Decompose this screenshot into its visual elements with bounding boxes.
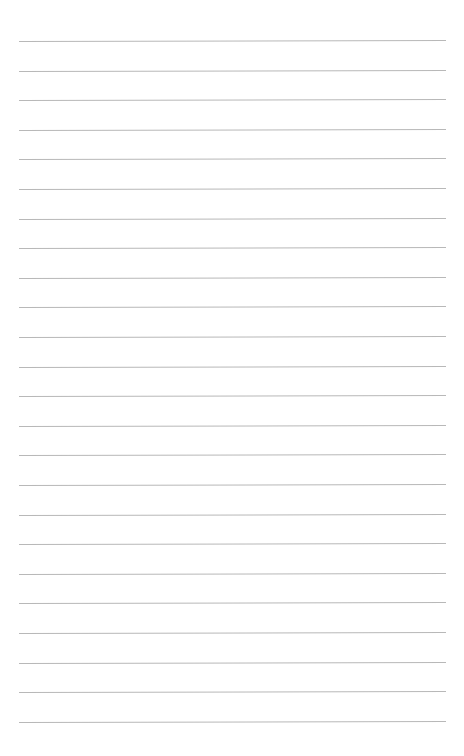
ruled-line [19, 70, 446, 72]
ruled-line [19, 277, 446, 279]
ruled-line [19, 336, 446, 338]
ruled-line [19, 395, 446, 397]
ruled-line [19, 129, 446, 131]
ruled-line [19, 188, 446, 190]
ruled-line [19, 721, 446, 723]
ruled-line [19, 514, 446, 516]
ruled-line [19, 306, 446, 308]
ruled-line [19, 366, 446, 368]
ruled-line [19, 662, 446, 664]
ruled-line [19, 602, 446, 604]
ruled-line [19, 247, 446, 249]
ruled-line [19, 40, 446, 42]
ruled-line [19, 632, 446, 634]
ruled-line [19, 99, 446, 101]
ruled-line [19, 691, 446, 693]
ruled-line [19, 484, 446, 486]
ruled-line [19, 543, 446, 545]
ruled-line [19, 158, 446, 160]
ruled-line [19, 454, 446, 456]
ruled-line [19, 573, 446, 575]
ruled-line [19, 218, 446, 220]
ruled-line [19, 425, 446, 427]
